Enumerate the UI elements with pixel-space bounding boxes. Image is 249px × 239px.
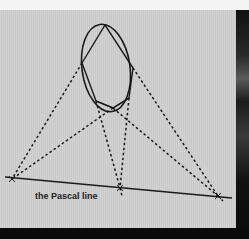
pascal-diagram <box>0 0 249 239</box>
pascal-line-label: the Pascal line <box>35 191 98 201</box>
ellipse <box>76 21 136 115</box>
